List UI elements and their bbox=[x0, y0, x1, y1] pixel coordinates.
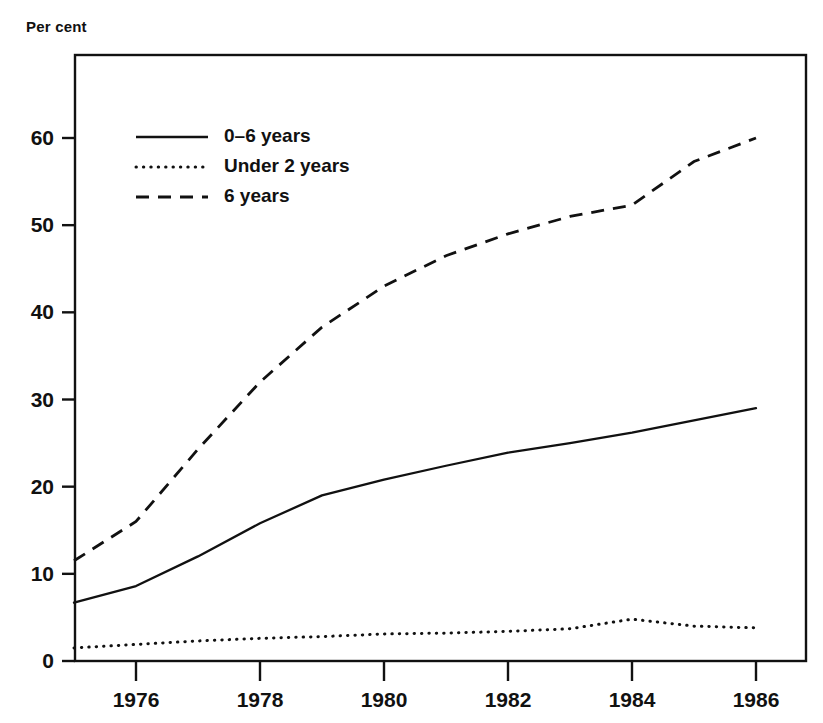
series-line-2 bbox=[74, 138, 756, 561]
x-tick-label-1976: 1976 bbox=[113, 688, 160, 711]
y-axis-title: Per cent bbox=[26, 18, 87, 35]
x-tick-label-1982: 1982 bbox=[485, 688, 532, 711]
y-tick-label-60: 60 bbox=[31, 126, 54, 149]
legend-label-1: Under 2 years bbox=[224, 155, 350, 176]
series-line-0 bbox=[74, 408, 756, 602]
line-chart: 0102030405060 197619781980198219841986 0… bbox=[0, 0, 823, 723]
y-tick-label-40: 40 bbox=[31, 300, 54, 323]
x-tick-label-1986: 1986 bbox=[733, 688, 780, 711]
legend-label-2: 6 years bbox=[224, 185, 290, 206]
x-tick-label-1980: 1980 bbox=[361, 688, 408, 711]
y-tick-label-20: 20 bbox=[31, 475, 54, 498]
legend-label-0: 0–6 years bbox=[224, 125, 311, 146]
y-tick-label-10: 10 bbox=[31, 562, 54, 585]
data-series-group bbox=[74, 138, 756, 648]
chart-figure: Per cent 0102030405060 19761978198019821… bbox=[0, 0, 823, 723]
y-tick-label-30: 30 bbox=[31, 388, 54, 411]
x-axis-ticks: 197619781980198219841986 bbox=[113, 661, 780, 711]
x-tick-label-1984: 1984 bbox=[609, 688, 656, 711]
plot-frame bbox=[75, 55, 806, 661]
y-tick-label-0: 0 bbox=[42, 649, 54, 672]
x-tick-label-1978: 1978 bbox=[237, 688, 284, 711]
series-line-1 bbox=[74, 619, 756, 648]
y-tick-label-50: 50 bbox=[31, 213, 54, 236]
y-axis-ticks: 0102030405060 bbox=[31, 126, 75, 672]
chart-legend: 0–6 yearsUnder 2 years6 years bbox=[136, 125, 350, 206]
